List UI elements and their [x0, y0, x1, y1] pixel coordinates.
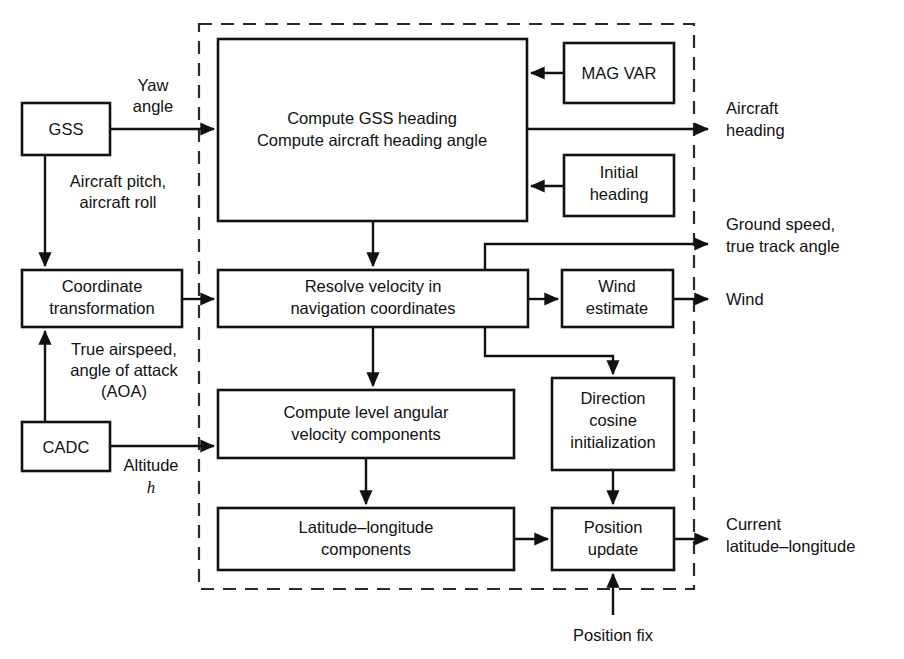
block-gss[interactable]: GSS	[22, 103, 110, 155]
block-position-update[interactable]: Position update	[552, 508, 674, 570]
block-mag-var-label: MAG VAR	[582, 64, 657, 82]
block-wind-estimate-label-2: estimate	[586, 299, 648, 317]
block-resolve-velocity[interactable]: Resolve velocity in navigation coordinat…	[218, 270, 528, 327]
edge-label-aircraft-attitude-line-1: Aircraft pitch,	[70, 172, 166, 190]
connector-resolve-velocity-to-ground-speed-output	[485, 244, 708, 270]
block-mag-var[interactable]: MAG VAR	[564, 43, 674, 103]
block-wind-estimate-label-1: Wind	[598, 277, 636, 295]
output-label-aircraft-heading-line-1: Aircraft	[726, 99, 779, 117]
output-label-current-lat-long-line-2: latitude–longitude	[726, 537, 855, 555]
block-compute-heading[interactable]: Compute GSS heading Compute aircraft hea…	[218, 39, 527, 221]
block-direction-cosine[interactable]: Direction cosine initialization	[552, 378, 674, 470]
output-label-ground-speed-line-2: true track angle	[726, 237, 840, 255]
output-label-ground-speed-line-1: Ground speed,	[726, 215, 835, 233]
connector-resolve-velocity-to-direction-cosine	[485, 327, 613, 374]
block-diagram-canvas: GSS Coordinate transformation CADC Compu…	[0, 0, 904, 659]
output-label-aircraft-heading: Aircraft heading	[726, 99, 785, 139]
block-resolve-velocity-label-2: navigation coordinates	[290, 299, 455, 317]
block-coordinate-transformation-label-1: Coordinate	[62, 277, 143, 295]
block-initial-heading[interactable]: Initial heading	[564, 155, 674, 216]
block-coordinate-transformation[interactable]: Coordinate transformation	[22, 270, 182, 327]
edge-label-true-airspeed-line-2: angle of attack	[70, 361, 178, 379]
block-initial-heading-label-1: Initial	[600, 163, 639, 181]
block-resolve-velocity-label-1: Resolve velocity in	[305, 277, 442, 295]
block-initial-heading-label-2: heading	[590, 185, 649, 203]
edge-label-yaw-angle-line-1: Yaw	[138, 76, 169, 94]
block-compute-level-angular-label-2: velocity components	[291, 425, 441, 443]
edge-label-altitude-symbol: h	[147, 478, 156, 497]
output-label-aircraft-heading-line-2: heading	[726, 121, 785, 139]
navigation-flow-diagram: GSS Coordinate transformation CADC Compu…	[0, 0, 904, 659]
block-latitude-longitude[interactable]: Latitude–longitude components	[218, 508, 514, 570]
block-compute-heading-label-2: Compute aircraft heading angle	[257, 131, 487, 149]
block-cadc[interactable]: CADC	[22, 422, 110, 471]
block-compute-heading-label-1: Compute GSS heading	[287, 109, 457, 127]
block-cadc-label: CADC	[43, 438, 90, 456]
block-latitude-longitude-label-2: components	[321, 540, 411, 558]
block-position-update-label-2: update	[588, 540, 638, 558]
block-latitude-longitude-label-1: Latitude–longitude	[299, 518, 434, 536]
edge-label-position-fix: Position fix	[573, 626, 654, 644]
output-label-ground-speed: Ground speed, true track angle	[726, 215, 840, 255]
block-direction-cosine-label-3: initialization	[570, 433, 655, 451]
edge-label-aircraft-attitude: Aircraft pitch, aircraft roll	[70, 172, 166, 211]
block-position-update-label-1: Position	[584, 518, 643, 536]
edge-label-yaw-angle: Yaw angle	[133, 76, 173, 115]
edge-label-true-airspeed: True airspeed, angle of attack (AOA)	[70, 340, 178, 400]
block-wind-estimate[interactable]: Wind estimate	[562, 270, 673, 327]
edge-label-true-airspeed-line-3: (AOA)	[101, 382, 147, 400]
block-direction-cosine-label-1: Direction	[580, 389, 645, 407]
block-compute-level-angular[interactable]: Compute level angular velocity component…	[218, 390, 514, 458]
block-compute-level-angular-label-1: Compute level angular	[283, 403, 449, 421]
output-label-current-lat-long: Current latitude–longitude	[726, 515, 855, 555]
scan-artifact-caption	[26, 640, 276, 650]
edge-label-yaw-angle-line-2: angle	[133, 97, 173, 115]
edge-label-altitude: Altitude h	[123, 456, 178, 497]
edge-label-altitude-line-1: Altitude	[123, 456, 178, 474]
edge-label-aircraft-attitude-line-2: aircraft roll	[79, 193, 156, 211]
block-coordinate-transformation-label-2: transformation	[49, 299, 154, 317]
block-direction-cosine-label-2: cosine	[589, 411, 637, 429]
block-gss-label: GSS	[49, 120, 84, 138]
output-label-wind: Wind	[726, 290, 764, 308]
output-label-current-lat-long-line-1: Current	[726, 515, 781, 533]
edge-label-true-airspeed-line-1: True airspeed,	[71, 340, 177, 358]
